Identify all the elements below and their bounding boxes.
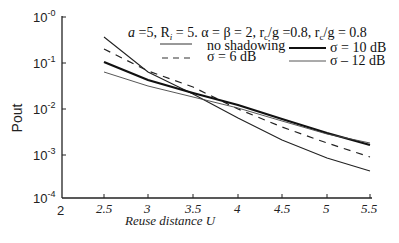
y-tick-label-3: 10-3 xyxy=(33,146,55,163)
x-axis-title: Reuse distance U xyxy=(124,213,217,228)
y-tick-label-4: 10-4 xyxy=(33,189,55,206)
y-axis-title: Pout xyxy=(9,103,25,132)
y-tick-label-1: 10-1 xyxy=(33,54,55,71)
x-tick-label-5: 5 xyxy=(323,201,330,216)
x-tick-label-5.5: 5.5 xyxy=(361,201,378,216)
chart-figure: 10-0 10-1 10-2 10-3 10-4 2 2.5 3 3.5 4 4… xyxy=(0,0,399,243)
y-tick-label-0: 10-0 xyxy=(33,8,55,25)
x-tick-label-4.5: 4.5 xyxy=(274,201,291,216)
y-ticks: 10-0 10-1 10-2 10-3 10-4 xyxy=(33,8,66,206)
x-tick-label-2.5: 2.5 xyxy=(96,201,113,216)
series-sigma10 xyxy=(104,62,370,145)
legend: no shadowing σ = 6 dB σ = 10 dB σ – 12 d… xyxy=(160,38,386,68)
legend-label-sigma12: σ – 12 dB xyxy=(330,53,385,68)
y-tick-label-2: 10-2 xyxy=(33,100,55,117)
x-tick-label-2: 2 xyxy=(57,203,64,218)
series-sigma12 xyxy=(104,72,370,143)
x-tick-label-4: 4 xyxy=(234,201,241,216)
legend-label-sigma6: σ = 6 dB xyxy=(207,49,256,64)
